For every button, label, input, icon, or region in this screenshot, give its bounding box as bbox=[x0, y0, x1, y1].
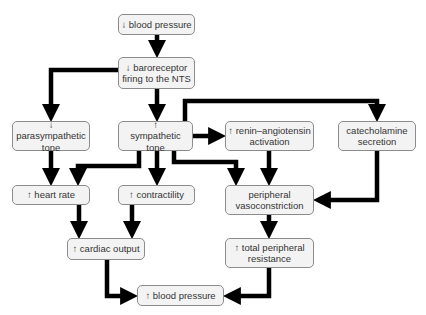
node-label: ↓ parasympathetic tone bbox=[15, 119, 87, 154]
node-heart-rate: ↑ heart rate bbox=[12, 185, 90, 205]
node-blood-pressure-increase: ↑ blood pressure bbox=[137, 285, 224, 306]
node-renin-angiotensin: ↑ renin–angiotensin activation bbox=[225, 121, 314, 151]
node-label: ↑ heart rate bbox=[27, 189, 75, 201]
node-label: ↑ cardiac output bbox=[72, 243, 139, 255]
node-label: peripheral vasoconstriction bbox=[230, 189, 310, 212]
node-baroreceptor-firing: ↓ baroreceptor firing to the NTS bbox=[118, 57, 195, 89]
node-blood-pressure-decrease: ↓ blood pressure bbox=[118, 14, 195, 35]
arrow-cardiac-output-to-bp bbox=[107, 260, 130, 296]
node-label: ↑ sympathetic tone bbox=[130, 119, 182, 154]
node-label: ↓ blood pressure bbox=[121, 19, 191, 31]
arrow-sympathetic-to-vasoconstriction bbox=[174, 151, 236, 178]
node-label: ↑ contractility bbox=[129, 189, 184, 201]
node-total-peripheral-resistance: ↑ total peripheral resistance bbox=[225, 238, 314, 268]
arrow-sympathetic-to-catecholamine bbox=[185, 101, 377, 121]
node-contractility: ↑ contractility bbox=[118, 185, 195, 205]
node-cardiac-output: ↑ cardiac output bbox=[67, 238, 145, 260]
node-label: ↑ total peripheral resistance bbox=[232, 242, 308, 265]
node-label: ↑ blood pressure bbox=[145, 290, 215, 302]
node-catecholamine-secretion: catecholamine secretion bbox=[338, 121, 416, 151]
arrow-catecholamine-to-vasoconstriction bbox=[321, 151, 377, 200]
node-parasympathetic-tone: ↓ parasympathetic tone bbox=[12, 121, 90, 151]
node-label: catecholamine secretion bbox=[341, 125, 413, 148]
arrow-sympathetic-to-heart-rate bbox=[78, 151, 139, 178]
node-label: ↑ renin–angiotensin activation bbox=[228, 125, 311, 148]
arrow-baroreceptor-to-parasympathetic bbox=[51, 70, 118, 114]
node-peripheral-vasoconstriction: peripheral vasoconstriction bbox=[225, 185, 314, 215]
node-sympathetic-tone: ↑ sympathetic tone bbox=[118, 121, 193, 151]
node-label: ↓ baroreceptor firing to the NTS bbox=[121, 62, 192, 85]
arrows-layer bbox=[0, 0, 426, 315]
arrow-tpr-to-bp bbox=[231, 268, 269, 296]
